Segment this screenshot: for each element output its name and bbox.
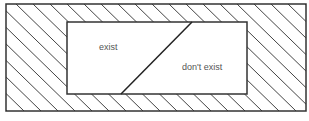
region-label-dont-exist: don't exist (182, 62, 223, 72)
venn-style-diagram: exist don't exist (0, 0, 309, 121)
hatch-line (237, 4, 309, 111)
region-label-exist: exist (99, 42, 118, 52)
hatch-line (271, 4, 309, 111)
